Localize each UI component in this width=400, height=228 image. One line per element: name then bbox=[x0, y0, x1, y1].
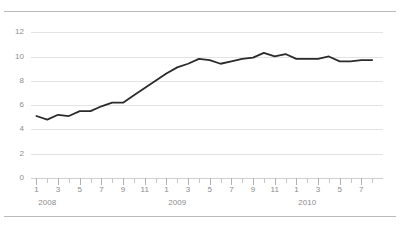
bottom-divider-rule bbox=[4, 216, 396, 217]
plot-area bbox=[31, 20, 383, 178]
x-tick-2008-05 bbox=[80, 178, 81, 185]
x-axis-year-labels: 200820092010 bbox=[0, 199, 400, 211]
chart-container: 024681012 135791113579111357 20082009201… bbox=[0, 0, 400, 228]
x-tick-2009-12 bbox=[286, 178, 287, 183]
x-month-label-2009-07: 7 bbox=[229, 186, 233, 194]
y-tick-label-6: 6 bbox=[0, 101, 24, 109]
x-tick-2009-11 bbox=[275, 178, 276, 185]
x-tick-2009-03 bbox=[188, 178, 189, 185]
x-month-label-2009-05: 5 bbox=[207, 186, 211, 194]
x-tick-2008-07 bbox=[101, 178, 102, 185]
x-tick-2010-03 bbox=[318, 178, 319, 185]
x-year-label-2010: 2010 bbox=[298, 199, 316, 207]
x-month-label-2008-07: 7 bbox=[99, 186, 103, 194]
x-tick-2008-10 bbox=[134, 178, 135, 183]
x-tick-2009-06 bbox=[221, 178, 222, 183]
y-tick-label-2: 2 bbox=[0, 150, 24, 158]
x-tick-2010-02 bbox=[307, 178, 308, 183]
x-month-label-2008-01: 1 bbox=[34, 186, 38, 194]
x-tick-2008-11 bbox=[145, 178, 146, 185]
x-tick-2009-05 bbox=[210, 178, 211, 185]
x-tick-2010-08 bbox=[372, 178, 373, 183]
x-month-label-2009-09: 9 bbox=[251, 186, 255, 194]
series-line bbox=[31, 20, 383, 178]
x-year-label-2008: 2008 bbox=[38, 199, 56, 207]
x-tick-2009-01 bbox=[166, 178, 167, 185]
x-tick-2009-02 bbox=[177, 178, 178, 183]
x-month-label-2009-03: 3 bbox=[186, 186, 190, 194]
x-month-label-2009-01: 1 bbox=[164, 186, 168, 194]
x-month-label-2008-05: 5 bbox=[77, 186, 81, 194]
x-tick-2010-06 bbox=[351, 178, 352, 183]
x-tick-2008-03 bbox=[58, 178, 59, 185]
x-tick-2008-04 bbox=[69, 178, 70, 183]
x-month-label-2008-03: 3 bbox=[56, 186, 60, 194]
y-tick-label-12: 12 bbox=[0, 28, 24, 36]
x-axis-month-labels: 135791113579111357 bbox=[0, 186, 400, 198]
x-month-label-2010-01: 1 bbox=[294, 186, 298, 194]
x-month-label-2010-07: 7 bbox=[359, 186, 363, 194]
x-tick-2009-07 bbox=[231, 178, 232, 185]
x-tick-2008-02 bbox=[47, 178, 48, 183]
x-tick-2008-09 bbox=[123, 178, 124, 185]
y-tick-label-4: 4 bbox=[0, 125, 24, 133]
x-tick-2008-06 bbox=[91, 178, 92, 183]
y-tick-label-0: 0 bbox=[0, 174, 24, 182]
x-month-label-2010-03: 3 bbox=[316, 186, 320, 194]
x-tick-2009-04 bbox=[199, 178, 200, 183]
x-month-label-2008-09: 9 bbox=[121, 186, 125, 194]
x-tick-2008-01 bbox=[36, 178, 37, 185]
x-tick-2010-04 bbox=[329, 178, 330, 183]
x-tick-2008-08 bbox=[112, 178, 113, 183]
x-tick-2009-09 bbox=[253, 178, 254, 185]
y-tick-label-8: 8 bbox=[0, 77, 24, 85]
x-year-label-2009: 2009 bbox=[168, 199, 186, 207]
x-tick-2008-12 bbox=[156, 178, 157, 183]
top-divider-rule bbox=[4, 11, 396, 12]
y-tick-label-10: 10 bbox=[0, 53, 24, 61]
x-axis-ticks bbox=[31, 178, 383, 185]
x-month-label-2008-11: 11 bbox=[141, 186, 149, 194]
x-tick-2010-05 bbox=[340, 178, 341, 185]
x-tick-2009-08 bbox=[242, 178, 243, 183]
x-month-label-2009-11: 11 bbox=[271, 186, 279, 194]
x-tick-2010-01 bbox=[296, 178, 297, 185]
x-tick-2009-10 bbox=[264, 178, 265, 183]
x-tick-2010-07 bbox=[361, 178, 362, 185]
x-month-label-2010-05: 5 bbox=[337, 186, 341, 194]
